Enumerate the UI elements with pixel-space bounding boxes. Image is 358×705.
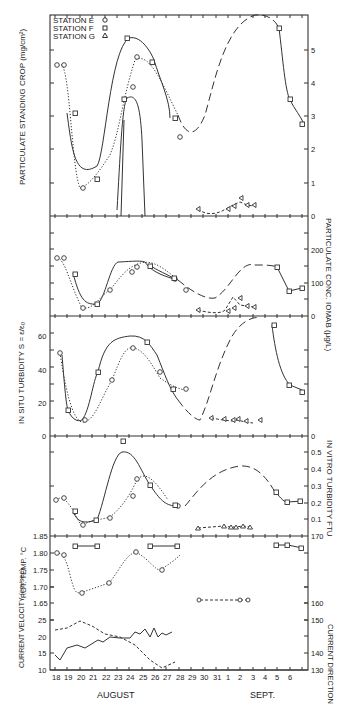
svg-text:1: 1 bbox=[311, 179, 315, 188]
svg-text:0.2: 0.2 bbox=[311, 499, 321, 508]
svg-text:0: 0 bbox=[311, 212, 315, 221]
svg-text:140: 140 bbox=[311, 649, 324, 658]
svg-text:4: 4 bbox=[263, 673, 267, 682]
svg-text:5: 5 bbox=[275, 673, 279, 682]
svg-text:1.80: 1.80 bbox=[33, 549, 48, 558]
svg-text:40: 40 bbox=[38, 366, 46, 375]
svg-text:150: 150 bbox=[311, 616, 324, 625]
y-ticks bbox=[50, 50, 308, 653]
x-month-september: SEPT. bbox=[250, 690, 275, 700]
ylabel-particulate-conc: PARTICULATE CONC. IOMAB (µg/L) bbox=[324, 218, 333, 351]
svg-text:25: 25 bbox=[139, 673, 147, 682]
panel-particulate-conc-markers bbox=[55, 256, 305, 314]
svg-text:0: 0 bbox=[311, 432, 315, 441]
svg-text:0.1: 0.1 bbox=[311, 515, 321, 524]
ylabel-in-vitro-turbidity: IN VITRO TURBIDITY FTU bbox=[325, 440, 334, 537]
svg-text:3: 3 bbox=[311, 112, 315, 121]
svg-text:130: 130 bbox=[311, 666, 324, 675]
day-ticks bbox=[55, 15, 302, 670]
ylabel-current-velocity: CURRENT VELOCITY (cm/sec) bbox=[18, 569, 26, 668]
svg-text:31: 31 bbox=[213, 673, 221, 682]
svg-text:3: 3 bbox=[251, 673, 255, 682]
svg-text:18: 18 bbox=[52, 673, 60, 682]
panel-in-vitro-turbidity-yaxis: 0.5 0.4 0.3 0.2 0.1 bbox=[311, 448, 321, 524]
panel-in-vitro-turbidity bbox=[56, 452, 302, 528]
panel-particulate-conc bbox=[57, 258, 302, 313]
svg-text:0.5: 0.5 bbox=[311, 448, 321, 457]
svg-text:29: 29 bbox=[188, 673, 196, 682]
panel-pot-temp-markers bbox=[55, 543, 304, 602]
panel-pot-temp bbox=[56, 545, 302, 600]
svg-text:2: 2 bbox=[311, 145, 315, 154]
svg-text:1.75: 1.75 bbox=[33, 566, 48, 575]
svg-text:28: 28 bbox=[176, 673, 184, 682]
svg-text:0: 0 bbox=[42, 432, 46, 441]
multi-panel-time-series-chart: STATION E STATION F STATION G 5 4 bbox=[0, 0, 358, 705]
x-month-august: AUGUST bbox=[97, 690, 135, 700]
svg-text:20: 20 bbox=[77, 673, 85, 682]
svg-text:10: 10 bbox=[38, 666, 46, 675]
svg-text:1: 1 bbox=[226, 673, 230, 682]
legend: STATION E STATION F STATION G bbox=[53, 16, 108, 41]
legend-station-g: STATION G bbox=[53, 32, 95, 41]
panel-in-situ-turbidity-markers bbox=[58, 323, 305, 424]
svg-text:160: 160 bbox=[311, 599, 324, 608]
svg-text:15: 15 bbox=[38, 649, 46, 658]
ylabel-standing-crop: PARTICULATE STANDING CROP (mg/cm²) bbox=[18, 29, 27, 185]
svg-text:26: 26 bbox=[151, 673, 159, 682]
svg-text:60: 60 bbox=[38, 332, 46, 341]
panel-current-yaxis: 25 20 15 10 170 150 160 140 130 bbox=[38, 532, 324, 675]
svg-text:4: 4 bbox=[311, 79, 315, 88]
panel-standing-crop-yaxis: 5 4 3 2 1 0 bbox=[311, 46, 315, 221]
svg-text:24: 24 bbox=[126, 673, 134, 682]
svg-text:22: 22 bbox=[102, 673, 110, 682]
panel-current bbox=[55, 621, 175, 668]
svg-text:19: 19 bbox=[64, 673, 72, 682]
svg-text:30: 30 bbox=[200, 673, 208, 682]
ylabel-current-direction: CURRENT DIRECTION bbox=[326, 624, 335, 704]
svg-text:21: 21 bbox=[89, 673, 97, 682]
circle-marker-icon bbox=[103, 18, 107, 22]
svg-text:20: 20 bbox=[38, 399, 46, 408]
x-axis-tick-labels: 18 19 20 21 22 23 24 25 26 27 28 29 30 3… bbox=[52, 673, 292, 682]
svg-text:1.65: 1.65 bbox=[33, 599, 48, 608]
panel-in-vitro-turbidity-markers bbox=[54, 439, 303, 530]
svg-text:200: 200 bbox=[311, 246, 324, 255]
svg-text:0.3: 0.3 bbox=[311, 482, 321, 491]
svg-text:23: 23 bbox=[114, 673, 122, 682]
svg-text:6: 6 bbox=[288, 673, 292, 682]
triangle-marker-icon bbox=[103, 33, 108, 38]
panel-standing-crop bbox=[55, 15, 304, 216]
svg-text:1.70: 1.70 bbox=[33, 583, 48, 592]
svg-text:0.4: 0.4 bbox=[311, 465, 321, 474]
svg-text:20: 20 bbox=[38, 633, 46, 642]
svg-text:27: 27 bbox=[163, 673, 171, 682]
svg-text:100: 100 bbox=[311, 279, 324, 288]
svg-text:5: 5 bbox=[311, 46, 315, 55]
panel-particulate-conc-yaxis: 200 100 0 bbox=[311, 246, 324, 321]
svg-text:2: 2 bbox=[238, 673, 242, 682]
panel-in-situ-turbidity-yaxis: 60 40 20 0 0 bbox=[38, 332, 315, 441]
svg-text:170: 170 bbox=[311, 532, 324, 541]
square-marker-icon bbox=[103, 26, 107, 30]
ylabel-in-situ-turbidity: IN SITU TURBIDITY S = ε/ε₀ bbox=[17, 322, 26, 424]
svg-text:1.85: 1.85 bbox=[33, 532, 48, 541]
plot-frame bbox=[50, 15, 308, 670]
svg-text:25: 25 bbox=[38, 616, 46, 625]
svg-text:0: 0 bbox=[311, 312, 315, 321]
panel-pot-temp-yaxis: 1.85 1.80 1.75 1.70 1.65 bbox=[33, 532, 48, 608]
